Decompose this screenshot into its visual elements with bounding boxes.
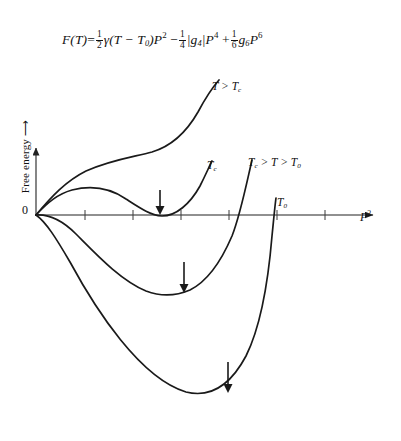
- term2-exponent: 4: [214, 30, 219, 40]
- coefficient-one-quarter: 14: [179, 30, 186, 50]
- equation-lhs: F(T): [62, 32, 87, 47]
- equation-plus: +: [222, 32, 230, 47]
- term3-exponent: 6: [258, 30, 263, 40]
- curve-label-tc: Tc: [207, 159, 217, 173]
- curve-label-t-greater-tc: T > Tc: [212, 80, 241, 94]
- free-energy-landau-figure: [0, 0, 401, 441]
- curve-label-tc-greater-t-greater-t0: Tc > T > T0: [248, 156, 301, 170]
- minimum-arrow-tc: [156, 190, 165, 215]
- free-energy-equation: F(T)=12γ(T − T0)P2 −14|g4|P4 +16g6P6: [62, 30, 263, 50]
- curve-t0: [36, 198, 276, 394]
- term1-exponent: 2: [162, 30, 167, 40]
- term2-tail: |P: [202, 32, 214, 47]
- x-axis-label-exponent: 2: [367, 209, 371, 218]
- minimum-arrow-intermediate: [180, 262, 189, 293]
- x-axis-label: P2: [360, 209, 371, 225]
- curve-tc-greater-t-greater-t0: [36, 160, 252, 295]
- minima-arrows: [156, 190, 233, 393]
- origin-label: 0: [22, 203, 28, 218]
- coefficient-one-half: 12: [96, 30, 103, 50]
- term1-tail: )P: [149, 32, 162, 47]
- curve-tc: [36, 161, 212, 216]
- term2-body: |g: [187, 32, 198, 47]
- y-axis-label: Free energy ⟶: [19, 97, 32, 217]
- term1-body: γ(T − T: [104, 32, 145, 47]
- coefficient-one-sixth: 16: [231, 30, 238, 50]
- equation-equals: =: [87, 32, 95, 47]
- curve-t-greater-tc: [36, 80, 219, 215]
- curve-label-t0: T0: [277, 196, 287, 210]
- equation-minus: −: [170, 32, 178, 47]
- term3-tail: P: [250, 32, 258, 47]
- free-energy-curves: [36, 80, 276, 394]
- axes-group: [36, 148, 373, 220]
